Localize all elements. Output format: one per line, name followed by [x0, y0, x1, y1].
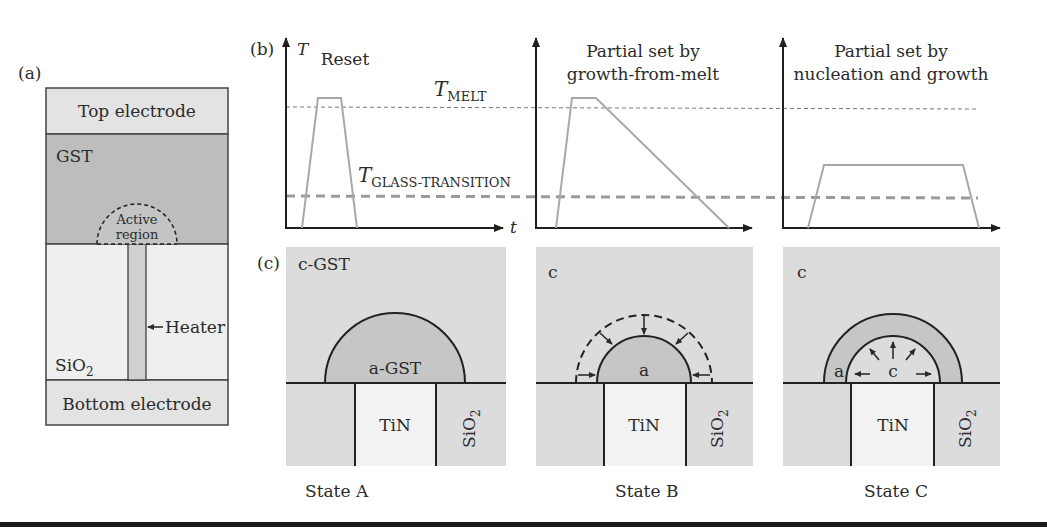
bottom-border-bar	[0, 522, 1047, 527]
state-c: c a c TiN SiO2 State C	[783, 247, 1000, 501]
panel-b: (b) T t TMELT TGLASS-TRANSITION Reset Pa…	[250, 38, 1000, 237]
figure-canvas: (a) Top electrode GST Active region Heat…	[0, 0, 1047, 527]
state-b: c a TiN SiO2 State B	[536, 247, 753, 501]
c-label: c	[797, 262, 807, 282]
panel-b-label: (b)	[250, 39, 274, 59]
reset-pulse	[302, 98, 357, 228]
c-gst-label: c-GST	[298, 254, 350, 274]
heater-pillar	[128, 244, 146, 380]
time-axis-label: t	[510, 217, 517, 237]
gst-label: GST	[56, 146, 93, 166]
state-caption: State A	[305, 481, 369, 501]
plot-reset: Reset	[285, 38, 503, 229]
top-electrode-label: Top electrode	[78, 101, 196, 121]
state-caption: State C	[864, 481, 928, 501]
tin-label: TiN	[628, 415, 660, 435]
c-inner-label: c	[888, 361, 898, 381]
plot-growth-from-melt: Partial set by growth-from-melt	[535, 38, 752, 229]
plot-title-line-1: Partial set by	[586, 41, 700, 61]
tin-label: TiN	[379, 415, 411, 435]
panel-a: (a) Top electrode GST Active region Heat…	[18, 63, 228, 425]
tin-label: TiN	[877, 415, 909, 435]
t-melt-line	[286, 107, 978, 109]
partial-set-pulse-1	[556, 98, 729, 228]
plot-nucleation-and-growth: Partial set by nucleation and growth	[782, 38, 1000, 229]
c-label: c	[548, 262, 558, 282]
active-region-label-2: region	[116, 227, 159, 242]
state-caption: State B	[615, 481, 678, 501]
plot-title-line-2: nucleation and growth	[794, 64, 989, 84]
temperature-axis-label: T	[297, 39, 310, 59]
a-gst-label: a-GST	[369, 358, 422, 378]
panel-c: (c) c-GST a-GST TiN SiO2 State A	[257, 247, 1000, 501]
active-region-label-1: Active	[115, 212, 157, 227]
state-a: c-GST a-GST TiN SiO2 State A	[286, 247, 506, 501]
panel-c-label: (c)	[257, 253, 280, 273]
plot-title: Reset	[321, 49, 370, 69]
t-glass-line	[286, 196, 978, 198]
a-label: a	[639, 360, 649, 380]
plot-title-line-2: growth-from-melt	[567, 64, 719, 84]
a-label: a	[834, 361, 844, 381]
plot-title-line-1: Partial set by	[834, 41, 948, 61]
t-glass-label: TGLASS-TRANSITION	[358, 163, 511, 190]
panel-a-label: (a)	[18, 63, 41, 83]
heater-label: Heater	[165, 317, 226, 337]
bottom-electrode-label: Bottom electrode	[62, 394, 211, 414]
t-melt-label: TMELT	[434, 77, 487, 104]
